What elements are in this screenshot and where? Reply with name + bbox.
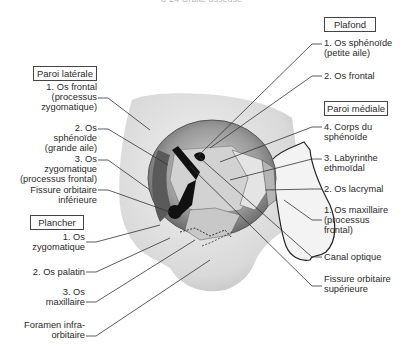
group-title-lateral-wall: Paroi latérale [33,66,97,81]
group-title-floor: Plancher [30,215,84,230]
label-floor-zygomatic: 1. Os zygomatique [32,232,85,252]
label-medial-maxilla: 1. Os maxillaire (processus frontal) [324,205,388,236]
label-infraorbital-foramen: Foramen infra- orbitaire [24,320,85,340]
label-optic-canal: Canal optique [324,252,381,262]
label-lateral-zygomatic: 3. Os zygomatique (processus frontal) [20,154,97,185]
label-lateral-frontal: 1. Os frontal (processus zygomatique) [41,82,97,113]
label-superior-orbital-fissure: Fissure orbitaire supérieure [324,274,391,294]
label-inferior-orbital-fissure: Fissure orbitaire inférieure [30,185,97,205]
label-roof-frontal: 2. Os frontal [324,71,375,81]
label-sphenoid-body: 4. Corps du sphénoïde [324,122,372,142]
label-floor-palatine: 2. Os palatin [33,267,85,277]
label-lateral-sphenoid: 2. Os sphénoïde (grande aile) [45,123,97,154]
group-title-roof: Plafond [324,17,376,32]
label-floor-maxilla: 3. Os maxillaire [46,287,85,307]
label-ethmoid-labyrinth: 3. Labyrinthe ethmoïdal [324,153,378,173]
group-title-medial-wall: Paroi médiale [324,101,388,116]
label-roof-sphenoid: 1. Os sphénoïde (petite aile) [324,38,392,58]
label-lacrimal: 2. Os lacrymal [324,184,383,194]
